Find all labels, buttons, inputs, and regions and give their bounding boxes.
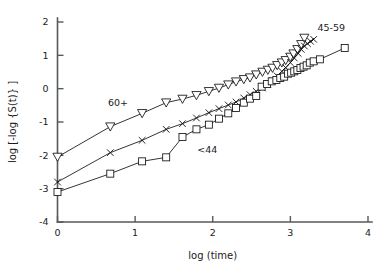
marker-x <box>304 40 311 47</box>
x-tick-label: 0 <box>54 227 60 238</box>
marker-square <box>205 121 212 128</box>
marker-x <box>225 102 232 109</box>
y-tick-label: 1 <box>42 50 48 61</box>
y-tick-label: -4 <box>39 216 48 227</box>
series--44 <box>54 45 348 196</box>
marker-square <box>163 154 170 161</box>
marker-x <box>216 105 223 112</box>
chart-canvas: -4-3-2-101201234 60+45-59<44 log (time)l… <box>0 0 389 267</box>
survival-log-log-plot: -4-3-2-101201234 60+45-59<44 log (time)l… <box>0 0 389 267</box>
annotation-group_60plus: 60+ <box>108 97 128 108</box>
marker-square <box>341 45 348 52</box>
marker-triangle-down <box>162 99 171 107</box>
x-tick-label: 3 <box>287 227 293 238</box>
marker-triangle-down <box>224 81 233 89</box>
x-tick-label: 1 <box>132 227 138 238</box>
y-axis-title: log [-log {S(t)} ] <box>7 81 18 163</box>
marker-x <box>310 36 317 43</box>
y-tick-label: 0 <box>42 83 48 94</box>
data-series <box>53 34 348 195</box>
marker-x <box>206 109 213 116</box>
marker-x <box>179 120 186 127</box>
marker-square <box>107 170 114 177</box>
marker-square <box>215 115 222 122</box>
annotation-group_45_59: 45-59 <box>318 22 346 33</box>
marker-square <box>54 189 61 196</box>
marker-square <box>225 110 232 117</box>
x-tick-label: 4 <box>365 227 371 238</box>
y-tick-label: 2 <box>42 16 48 27</box>
axes <box>58 18 373 222</box>
y-tick-label: -1 <box>39 116 48 127</box>
marker-square <box>233 105 240 112</box>
marker-square <box>179 134 186 141</box>
marker-square <box>253 93 260 100</box>
series-45-59 <box>54 36 317 185</box>
marker-square <box>316 56 323 63</box>
x-axis-title: log (time) <box>188 250 237 261</box>
marker-square <box>139 158 146 165</box>
marker-triangle-down <box>214 84 223 92</box>
series-60- <box>53 34 309 161</box>
marker-x <box>139 137 146 144</box>
marker-triangle-down <box>231 78 240 86</box>
marker-x <box>193 115 200 122</box>
marker-x <box>163 126 170 133</box>
y-tick-label: -2 <box>39 150 48 161</box>
marker-triangle-down <box>53 153 62 161</box>
marker-triangle-down <box>204 88 213 96</box>
marker-x <box>107 149 114 156</box>
marker-triangle-down <box>192 92 201 100</box>
series-line <box>58 39 314 182</box>
annotation-group_under44: <44 <box>197 144 217 155</box>
marker-triangle-down <box>106 123 115 131</box>
x-tick-label: 2 <box>210 227 216 238</box>
y-tick-label: -3 <box>39 183 48 194</box>
marker-triangle-down <box>138 110 147 118</box>
marker-square <box>193 126 200 133</box>
